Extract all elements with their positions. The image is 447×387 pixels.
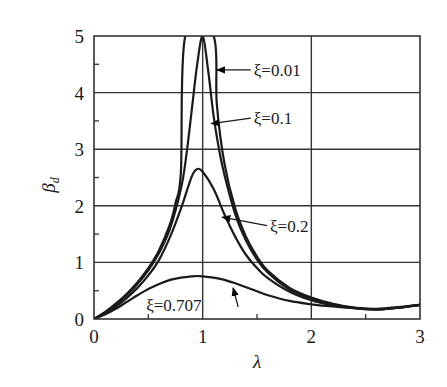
annotation-label: ξ=0.1 — [254, 109, 292, 128]
y-axis-label: βd — [38, 176, 62, 193]
annotation-label: ξ=0.707 — [146, 296, 202, 315]
y-axis-label-main: β — [38, 183, 59, 194]
x-tick-label: 0 — [89, 326, 99, 347]
y-tick-label: 0 — [75, 309, 85, 330]
y-tick-label: 5 — [75, 26, 85, 47]
annotation-arrow — [233, 288, 238, 307]
svg-text:βd: βd — [38, 176, 62, 193]
damping-response-chart: ξ=0.01ξ=0.1ξ=0.2ξ=0.707 0123012345 λ βd — [0, 0, 447, 387]
y-tick-label: 1 — [75, 252, 85, 273]
y-axis-label-sub: d — [48, 176, 62, 183]
x-tick-label: 3 — [415, 326, 425, 347]
x-tick-label: 2 — [307, 326, 317, 347]
annotation-label: ξ=0.01 — [254, 61, 301, 80]
y-tick-label: 3 — [75, 139, 85, 160]
x-tick-label: 1 — [198, 326, 208, 347]
curve-0-2 — [94, 169, 420, 319]
y-tick-label: 4 — [75, 83, 85, 104]
y-tick-label: 2 — [75, 196, 85, 217]
annotation-label: ξ=0.2 — [270, 217, 308, 236]
x-axis-label: λ — [252, 351, 261, 372]
